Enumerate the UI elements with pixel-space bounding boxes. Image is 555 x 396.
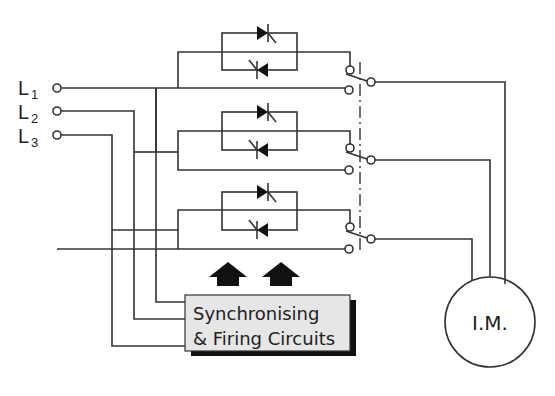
wire-sync-l1: [156, 88, 186, 302]
terminal-l3: [53, 131, 61, 139]
thyristor-block-3: [222, 183, 297, 239]
svg-text:L: L: [18, 101, 29, 123]
arrow-up-icon: [209, 262, 247, 286]
wire-out-1: [375, 82, 505, 284]
svg-text:L: L: [18, 125, 29, 147]
wire-out-3: [375, 239, 472, 281]
controller-line1: Synchronising: [193, 303, 319, 324]
thyristor-block-1: [178, 24, 350, 88]
wire-l3: [61, 135, 186, 346]
terminal-l1: [53, 84, 61, 92]
controller-line2: & Firing Circuits: [193, 328, 335, 349]
line-label-l3: L 3: [18, 125, 38, 150]
svg-text:3: 3: [31, 135, 38, 150]
soft-starter-diagram: L 1 L 2 L 3: [0, 0, 555, 396]
svg-text:L: L: [18, 77, 29, 99]
line-label-l1: L 1: [18, 77, 38, 102]
terminal-l2: [53, 107, 61, 115]
arrow-up-icon: [262, 262, 300, 286]
wire-l2: [61, 111, 186, 319]
motor-label: I.M.: [472, 311, 508, 335]
bypass-switches: [345, 62, 375, 253]
svg-text:2: 2: [31, 111, 38, 126]
svg-text:1: 1: [31, 87, 38, 102]
line-label-l2: L 2: [18, 101, 38, 126]
